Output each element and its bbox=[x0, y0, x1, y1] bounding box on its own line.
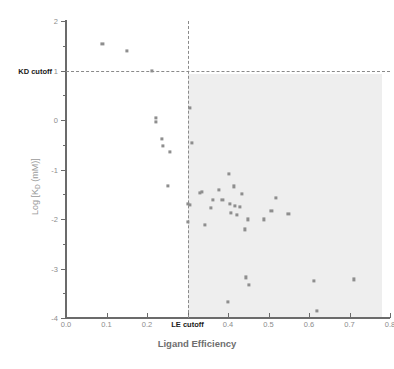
x-axis-tick bbox=[66, 313, 67, 318]
data-point bbox=[243, 228, 246, 231]
data-point bbox=[352, 278, 355, 281]
data-point bbox=[154, 116, 157, 119]
data-point bbox=[232, 185, 235, 188]
x-axis-tick bbox=[390, 313, 391, 318]
y-axis-tick-label: 1 bbox=[54, 66, 58, 75]
data-point bbox=[221, 198, 224, 201]
data-point bbox=[203, 223, 206, 226]
le-cutoff-line bbox=[188, 21, 189, 318]
y-axis-title-subscript: D bbox=[34, 184, 41, 189]
data-point bbox=[209, 206, 212, 209]
data-point bbox=[234, 205, 237, 208]
y-axis-minor-tick bbox=[63, 95, 66, 96]
y-axis-tick-label: -1 bbox=[51, 165, 58, 174]
data-point bbox=[312, 279, 315, 282]
shaded-region-box bbox=[188, 74, 382, 318]
data-point bbox=[217, 189, 220, 192]
x-axis-tick-label: 0.4 bbox=[223, 320, 233, 329]
data-point bbox=[235, 213, 238, 216]
data-point bbox=[247, 283, 250, 286]
data-point bbox=[188, 204, 191, 207]
y-axis-tick-label: 2 bbox=[54, 17, 58, 26]
y-axis-minor-tick bbox=[63, 46, 66, 47]
data-point bbox=[190, 141, 193, 144]
x-axis-tick bbox=[107, 313, 108, 318]
data-point bbox=[287, 212, 290, 215]
data-point bbox=[228, 202, 231, 205]
data-point bbox=[229, 211, 232, 214]
y-axis-tick bbox=[61, 120, 66, 121]
data-point bbox=[239, 206, 242, 209]
y-axis-tick bbox=[61, 21, 66, 22]
data-point bbox=[274, 196, 277, 199]
data-point bbox=[211, 198, 214, 201]
data-point bbox=[244, 276, 247, 279]
x-axis-tick-label: 0.2 bbox=[142, 320, 152, 329]
y-axis-tick-label: -2 bbox=[51, 215, 58, 224]
data-point bbox=[166, 184, 169, 187]
data-point bbox=[198, 192, 201, 195]
data-point bbox=[160, 138, 163, 141]
x-axis-tick-label: 0.1 bbox=[101, 320, 111, 329]
data-point bbox=[227, 172, 230, 175]
data-point bbox=[241, 192, 244, 195]
x-axis-tick-label: 0.7 bbox=[344, 320, 354, 329]
x-axis-tick bbox=[269, 313, 270, 318]
data-point bbox=[270, 209, 273, 212]
data-point bbox=[226, 301, 229, 304]
y-axis-tick-label: 0 bbox=[54, 116, 58, 125]
data-point bbox=[154, 120, 157, 123]
y-axis-minor-tick bbox=[63, 244, 66, 245]
y-axis-title: Log [KD (mM)] bbox=[30, 158, 40, 215]
x-axis-tick-label: 0.5 bbox=[263, 320, 273, 329]
data-point bbox=[187, 220, 190, 223]
y-axis-minor-tick bbox=[63, 293, 66, 294]
x-axis-tick-label: 0.8 bbox=[385, 320, 394, 329]
scatter-plot-figure: Log [KD (mM)] Ligand Efficiency 210-1-2-… bbox=[0, 0, 394, 369]
data-point bbox=[101, 43, 104, 46]
kd-cutoff-line bbox=[66, 71, 390, 72]
data-point bbox=[247, 218, 250, 221]
x-axis-tick-label: 0.0 bbox=[61, 320, 71, 329]
x-axis-tick-label: 0.6 bbox=[304, 320, 314, 329]
le-cutoff-label: LE cutoff bbox=[171, 320, 204, 329]
x-axis-tick bbox=[228, 313, 229, 318]
data-point bbox=[315, 309, 318, 312]
x-axis-tick bbox=[147, 313, 148, 318]
data-point bbox=[162, 145, 165, 148]
y-axis-tick-label: -4 bbox=[51, 314, 58, 323]
y-axis-tick bbox=[61, 170, 66, 171]
y-axis-minor-tick bbox=[63, 194, 66, 195]
y-axis-tick bbox=[61, 71, 66, 72]
kd-cutoff-label: KD cutoff bbox=[18, 66, 52, 75]
data-point bbox=[262, 218, 265, 221]
x-axis-tick bbox=[350, 313, 351, 318]
x-axis-tick bbox=[309, 313, 310, 318]
data-point bbox=[188, 107, 191, 110]
y-axis-tick bbox=[61, 219, 66, 220]
data-point bbox=[168, 151, 171, 154]
data-point bbox=[125, 49, 128, 52]
y-axis-minor-tick bbox=[63, 145, 66, 146]
data-point bbox=[150, 69, 153, 72]
y-axis-tick bbox=[61, 269, 66, 270]
x-axis-title: Ligand Efficiency bbox=[0, 338, 394, 349]
y-axis-tick-label: -3 bbox=[51, 264, 58, 273]
